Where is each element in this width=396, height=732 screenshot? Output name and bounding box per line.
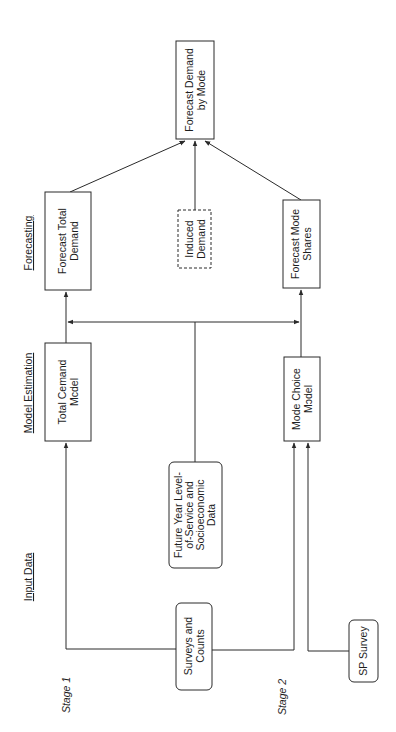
edge-forecast-total-to-by-mode bbox=[70, 141, 185, 192]
node-mode-choice-model: Mode Choice Mɔdel bbox=[284, 357, 320, 441]
column-header-input-data: Input Data bbox=[22, 553, 34, 602]
column-header-model-estimation: Model Estimation bbox=[22, 353, 34, 434]
node-future-year-data: Future Year Level- of-Service and Socioe… bbox=[169, 462, 222, 568]
node-forecast-demand-by-mode: Forecast Demand by Mode bbox=[176, 41, 214, 139]
node-label-line1: Total Cemand bbox=[56, 359, 68, 424]
node-forecast-mode-shares: Forecast Mode Shares bbox=[283, 200, 320, 288]
node-label-line2: by Mode bbox=[195, 70, 207, 110]
node-label-line2: Shares bbox=[301, 227, 313, 260]
node-label-line1: SP Survey bbox=[357, 626, 369, 676]
node-surveys-and-counts: Surveys and Counts bbox=[176, 603, 212, 690]
node-label-line2: Demand bbox=[68, 221, 80, 261]
stage-label-2: Stage 2 bbox=[276, 679, 288, 715]
node-label-line2: Mɔdel bbox=[302, 385, 314, 413]
node-label-line2: Counts bbox=[194, 629, 206, 662]
node-label-line2: Mcdel bbox=[68, 378, 80, 406]
node-label-line1: Surveys and bbox=[182, 617, 194, 676]
stage-label-1: Stage 1 bbox=[60, 677, 72, 713]
node-sp-survey: SP Survey bbox=[349, 620, 378, 682]
node-label-line1: Induced bbox=[183, 220, 195, 258]
node-label-line2: Demand bbox=[195, 219, 207, 259]
column-header-forecasting: Forecasting bbox=[22, 215, 34, 270]
demand-forecasting-flowchart: Forecast Demand by Mode Forecast Total D… bbox=[0, 0, 396, 732]
edge-forecast-mode-shares-to-by-mode bbox=[205, 141, 301, 200]
node-label-line1: Forecast Demand bbox=[183, 48, 195, 132]
edge-sp-survey-to-mode-choice-model bbox=[308, 443, 349, 651]
node-label-line1: Forecast Mode bbox=[289, 209, 301, 279]
node-total-demand-model: Total Cemand Mcdel bbox=[45, 343, 91, 441]
node-label-line1: Mode Choice bbox=[290, 368, 302, 430]
edge-surveys-to-mode-choice-model bbox=[212, 443, 294, 650]
node-label-line1: Forecast Total bbox=[56, 208, 68, 274]
node-forecast-total-demand: Forecast Total Demand bbox=[45, 192, 91, 290]
node-label-line4: Data bbox=[205, 504, 217, 526]
node-induced-demand: Induced Demand bbox=[178, 210, 211, 268]
edge-surveys-to-total-demand-model bbox=[66, 443, 176, 649]
